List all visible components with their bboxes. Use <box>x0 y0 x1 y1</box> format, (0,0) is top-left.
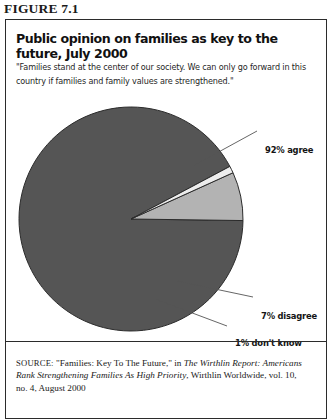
source-text-1: "Families: Key To The Future," in <box>54 358 184 368</box>
figure-number-label: FIGURE 7.1 <box>4 1 79 17</box>
source-divider <box>6 341 326 342</box>
pie-chart-area: 92% agree 7% disagree 1% don't know <box>5 19 327 341</box>
source-kicker: SOURCE: <box>16 358 54 368</box>
source-note: SOURCE: "Families: Key To The Future," i… <box>16 357 306 394</box>
pie-chart-svg <box>5 19 327 341</box>
source-text-2: , Wirthlin <box>186 370 221 380</box>
source-title-part-1: The Wirthlin Report: <box>184 358 261 368</box>
pie-label-dontknow: 1% don't know <box>235 338 302 348</box>
pie-label-agree: 92% agree <box>265 145 313 155</box>
pie-label-disagree: 7% disagree <box>261 311 317 321</box>
